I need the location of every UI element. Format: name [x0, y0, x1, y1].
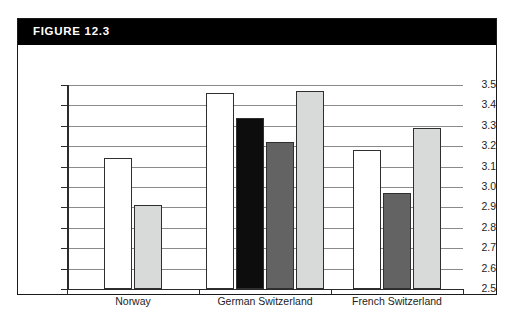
category-label: German Switzerland — [217, 295, 312, 307]
bar — [296, 91, 324, 289]
bar — [266, 142, 294, 289]
y-axis-line — [67, 85, 69, 290]
x-axis-tick — [199, 289, 200, 295]
gridline — [67, 85, 463, 86]
figure-header-bar: FIGURE 12.3 — [18, 19, 496, 45]
figure-box: FIGURE 12.3 3.53.43.33.23.13.02.92.82.72… — [17, 18, 497, 295]
bar — [134, 205, 162, 289]
y-axis-tick-label: 3.0 — [456, 180, 496, 192]
y-axis-tick-label: 2.6 — [456, 262, 496, 274]
figure-root: FIGURE 12.3 3.53.43.33.23.13.02.92.82.72… — [0, 0, 513, 319]
category-label: Norway — [115, 295, 151, 307]
bar — [353, 150, 381, 289]
figure-title: FIGURE 12.3 — [33, 25, 110, 37]
y-axis-tick-label: 3.2 — [456, 139, 496, 151]
gridline — [67, 105, 463, 106]
plot-area: 3.53.43.33.23.13.02.92.82.72.62.5 Norway… — [18, 45, 496, 296]
category-label: French Switzerland — [352, 295, 442, 307]
bar — [383, 193, 411, 289]
y-axis-tick-label: 2.7 — [456, 241, 496, 253]
bar — [104, 158, 132, 289]
y-axis-tick-label: 2.8 — [456, 221, 496, 233]
gridline — [67, 126, 463, 127]
y-axis-tick-label: 3.1 — [456, 160, 496, 172]
x-axis-tick — [463, 289, 464, 295]
y-axis-tick-label: 2.9 — [456, 200, 496, 212]
y-axis-tick-label: 3.3 — [456, 119, 496, 131]
x-axis-tick — [67, 289, 68, 295]
bar — [236, 118, 264, 289]
bar — [206, 93, 234, 289]
bar — [413, 128, 441, 289]
y-axis-tick-label: 3.4 — [456, 98, 496, 110]
y-axis-tick-label: 3.5 — [456, 78, 496, 90]
gridline — [67, 146, 463, 147]
x-axis-tick — [331, 289, 332, 295]
